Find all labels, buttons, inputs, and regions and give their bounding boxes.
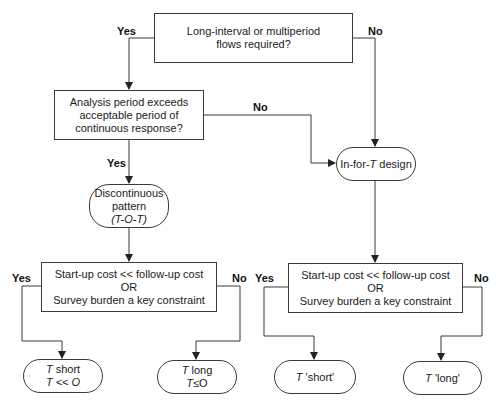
- decision-text-line: flows required?: [216, 38, 291, 51]
- process-text: design: [376, 158, 411, 171]
- decision-analysis-period: Analysis period exceeds acceptable perio…: [54, 90, 204, 140]
- decision-text-line: OR: [121, 281, 138, 294]
- decision-text-line: Start-up cost << follow-up cost: [301, 269, 450, 282]
- decision-text-line: Start-up cost << follow-up cost: [55, 268, 204, 281]
- d1-yes-label: Yes: [117, 25, 136, 37]
- terminal-t-long: T long T≤O: [157, 360, 237, 394]
- d3-left-yes-label: Yes: [12, 272, 31, 284]
- terminal-text: 'long': [432, 372, 460, 385]
- process-discontinuous-pattern: Discontinuous pattern (T-O-T): [89, 184, 169, 228]
- terminal-text: 'short': [303, 371, 335, 384]
- decision-text-line: Analysis period exceeds: [70, 96, 189, 109]
- decision-long-interval: Long-interval or multiperiod flows requi…: [154, 13, 353, 63]
- decision-text-line: OR: [367, 282, 384, 295]
- terminal-text: long: [188, 364, 212, 376]
- d2-yes-label: Yes: [107, 157, 126, 169]
- process-text: In-for-: [340, 158, 369, 171]
- d1-no-label: No: [368, 25, 383, 37]
- decision-text-line: Long-interval or multiperiod: [187, 25, 320, 38]
- process-text-line: Discontinuous: [94, 187, 163, 200]
- terminal-text: ≤O: [193, 377, 208, 389]
- decision-text-line: Survey burden a key constraint: [300, 295, 452, 308]
- terminal-italic: T << O: [46, 376, 80, 389]
- terminal-t-short: T short T << O: [23, 359, 103, 393]
- decision-startup-cost-right: Start-up cost << follow-up cost OR Surve…: [288, 263, 463, 313]
- d3-left-no-label: No: [232, 272, 247, 284]
- process-in-for-t-design: In-for-T design: [336, 147, 416, 181]
- process-text-line: pattern: [112, 200, 146, 213]
- terminal-italic: T: [296, 371, 303, 384]
- d3-right-yes-label: Yes: [255, 272, 274, 284]
- terminal-italic: T: [425, 372, 432, 385]
- process-text-line: (T-O-T): [111, 213, 147, 226]
- terminal-t-short-quoted: T 'short': [274, 360, 356, 394]
- d3-right-no-label: No: [474, 272, 489, 284]
- terminal-italic: T: [46, 363, 53, 375]
- d2-no-label: No: [253, 101, 268, 113]
- decision-text-line: continuous response?: [75, 122, 183, 135]
- terminal-t-long-quoted: T 'long': [403, 361, 482, 395]
- terminal-text: short: [53, 363, 81, 375]
- decision-text-line: acceptable period of: [79, 109, 178, 122]
- process-text-italic: T: [370, 158, 377, 171]
- decision-text-line: Survey burden a key constraint: [53, 294, 205, 307]
- decision-startup-cost-left: Start-up cost << follow-up cost OR Surve…: [41, 262, 217, 312]
